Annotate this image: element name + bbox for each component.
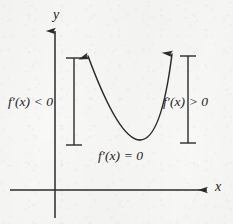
left-interval-bracket bbox=[66, 58, 82, 145]
derivative-zero-label: f′(x) = 0 bbox=[98, 149, 143, 163]
parabola-left-arm bbox=[88, 56, 140, 140]
derivative-positive-label: f′(x) > 0 bbox=[163, 95, 208, 109]
derivative-sign-diagram: y x f′(x) < 0 f′(x) > 0 f′(x) = 0 bbox=[0, 0, 233, 224]
figure-graphics bbox=[0, 0, 233, 224]
derivative-negative-label: f′(x) < 0 bbox=[8, 95, 53, 109]
x-axis-label: x bbox=[215, 180, 221, 194]
y-axis-label: y bbox=[53, 8, 59, 22]
